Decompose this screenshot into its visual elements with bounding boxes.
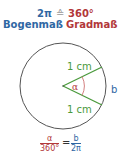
formula-left-denominator: 360° [40, 144, 59, 153]
arc-label: b [111, 84, 117, 95]
circle-diagram: 1 cm 1 cm α b [0, 0, 125, 160]
angle-label: α [72, 82, 78, 92]
radius-label-top: 1 cm [67, 61, 92, 72]
angle-arc [82, 77, 84, 96]
formula-left-numerator: α [40, 134, 59, 144]
center-point [62, 85, 64, 87]
formula-left-fraction: α 360° [40, 134, 59, 153]
formula-equals: = [62, 137, 70, 148]
radius-label-bottom: 1 cm [67, 104, 92, 115]
formula-right-fraction: b 2π [71, 134, 81, 153]
formula-right-denominator: 2π [71, 144, 81, 153]
formula-right-numerator: b [71, 134, 81, 144]
